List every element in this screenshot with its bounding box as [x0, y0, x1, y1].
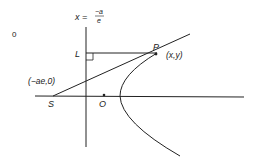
- directrix-label-lhs: x =: [74, 12, 87, 22]
- label-P: P: [153, 42, 159, 52]
- hyperbola-branch: [120, 53, 180, 156]
- directrix-label-numerator: −a: [95, 8, 103, 15]
- directrix-label-denominator: e: [97, 17, 101, 24]
- label-O: O: [99, 99, 106, 109]
- label-P-coords: (x,y): [166, 50, 183, 60]
- right-angle-marker: [86, 53, 93, 60]
- point-O: [103, 94, 106, 97]
- corner-label: 0: [12, 30, 17, 39]
- hyperbola-diagram: x = −a e 0 L P (x,y) (−ae,0) S O: [0, 0, 254, 165]
- label-S: S: [48, 99, 54, 109]
- label-S-coords: (−ae,0): [28, 76, 55, 86]
- x-axis: [35, 96, 244, 97]
- label-L: L: [75, 49, 80, 59]
- point-P: [155, 53, 158, 56]
